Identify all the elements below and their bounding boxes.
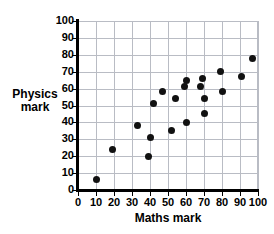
y-tick-label: 0 (48, 184, 74, 195)
grid-line-horizontal (78, 139, 258, 140)
grid-line-horizontal (78, 72, 258, 73)
y-tick-label: 10 (48, 167, 74, 178)
grid-line-horizontal (78, 156, 258, 157)
y-tick-label: 20 (48, 150, 74, 161)
data-point (217, 68, 224, 75)
data-point (249, 55, 256, 62)
grid-line-horizontal (78, 89, 258, 90)
data-point (93, 176, 100, 183)
data-point (201, 110, 208, 117)
data-point (134, 122, 141, 129)
data-point (183, 77, 190, 84)
y-tick-label: 100 (48, 15, 74, 26)
x-tick-label: 100 (245, 196, 271, 208)
data-point (183, 119, 190, 126)
y-axis-title-line-2: mark (4, 101, 66, 114)
grid-line-horizontal (78, 55, 258, 56)
grid-line-vertical (258, 21, 259, 190)
y-tick-label: 40 (48, 116, 74, 127)
grid-line-horizontal (78, 106, 258, 107)
data-point (168, 127, 175, 134)
data-point (159, 88, 166, 95)
y-tick-label: 30 (48, 133, 74, 144)
y-axis-title: Physics mark (4, 88, 66, 114)
data-point (145, 153, 152, 160)
data-point (219, 88, 226, 95)
grid-line-horizontal (78, 173, 258, 174)
grid-line-horizontal (78, 38, 258, 39)
data-point (147, 134, 154, 141)
data-point (172, 95, 179, 102)
data-point (199, 75, 206, 82)
plot-area (78, 21, 258, 190)
grid-line-horizontal (78, 122, 258, 123)
y-tick-label: 90 (48, 32, 74, 43)
x-axis-title: Maths mark (78, 211, 258, 225)
grid-line-horizontal (78, 21, 258, 22)
data-point (109, 146, 116, 153)
data-point (238, 73, 245, 80)
y-tick-label: 80 (48, 49, 74, 60)
scatter-chart: 0102030405060708090100 01020304050607080… (0, 0, 274, 234)
y-axis-line (76, 19, 79, 192)
y-tick-label: 70 (48, 66, 74, 77)
data-point (201, 95, 208, 102)
